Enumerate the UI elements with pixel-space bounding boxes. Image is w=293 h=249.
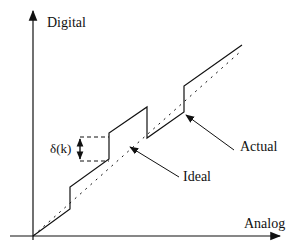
actual-label: Actual <box>240 140 277 154</box>
ideal-label: Ideal <box>183 170 211 184</box>
quantizer-diagram: Digital Analog δ(k) Actual Ideal <box>0 0 293 249</box>
y-axis-label: Digital <box>47 16 86 30</box>
ideal-pointer-arrow <box>130 147 179 177</box>
x-axis-label: Analog <box>244 217 285 231</box>
delta-label: δ(k) <box>50 142 71 155</box>
diagram-graphic <box>0 0 293 249</box>
actual-pointer-arrow <box>186 115 234 150</box>
delta-box <box>80 137 109 161</box>
